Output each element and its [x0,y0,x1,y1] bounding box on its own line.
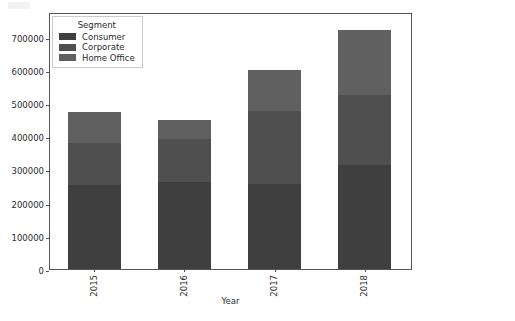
y-tick-label: 400000 [12,134,50,143]
legend-swatch-consumer [59,33,76,40]
x-tick-label: 2016 [180,275,189,297]
legend-item-home-office: Home Office [59,54,135,63]
y-tick-label: 500000 [12,101,50,110]
legend-label-consumer: Consumer [82,33,125,42]
render-artifact [8,2,30,9]
x-tick-mark [275,269,276,272]
legend-item-corporate: Corporate [59,43,135,52]
bar-segment-home-office [338,30,392,95]
y-tick-label: 100000 [12,234,50,243]
legend-swatch-home-office [59,54,76,61]
y-tick-label: 0 [39,267,50,276]
bar-segment-consumer [68,185,122,270]
x-tick-label: 2017 [270,275,279,297]
bar-2016 [158,120,212,269]
chart-figure: 0 100000 200000 300000 400000 500000 600… [0,0,515,321]
bar-segment-corporate [338,95,392,165]
x-tick-label: 2018 [360,275,369,297]
bar-segment-corporate [158,139,212,183]
bar-2015 [68,112,122,269]
bar-segment-home-office [158,120,212,139]
bar-segment-consumer [158,182,212,269]
x-tick-mark [94,269,95,272]
bar-segment-home-office [248,70,302,111]
y-tick-label: 700000 [12,34,50,43]
legend-label-home-office: Home Office [82,54,135,63]
x-axis-title: Year [49,296,412,306]
bar-segment-home-office [68,112,122,143]
legend-title: Segment [59,21,135,30]
bar-2017 [248,70,302,269]
bar-segment-consumer [248,184,302,269]
y-tick-label: 600000 [12,68,50,77]
bar-segment-corporate [68,143,122,184]
legend-swatch-corporate [59,44,76,51]
y-tick-label: 300000 [12,167,50,176]
x-tick-mark [365,269,366,272]
chart-legend: Segment Consumer Corporate Home Office [52,16,143,68]
x-tick-mark [184,269,185,272]
bar-2018 [338,30,392,269]
bar-segment-consumer [338,165,392,269]
legend-item-consumer: Consumer [59,33,135,42]
bar-segment-corporate [248,111,302,184]
legend-label-corporate: Corporate [82,43,125,52]
x-tick-label: 2015 [90,275,99,297]
y-tick-label: 200000 [12,200,50,209]
